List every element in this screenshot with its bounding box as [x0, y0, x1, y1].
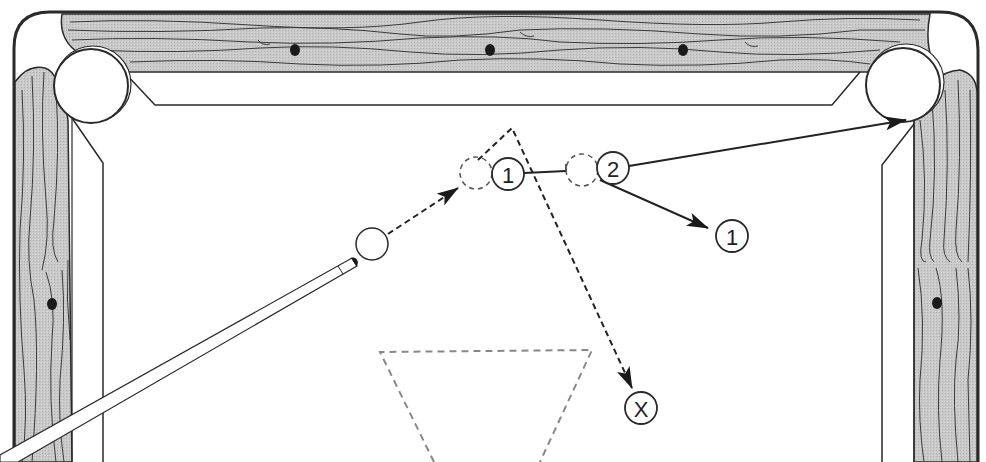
- object-ball-1: 1: [492, 158, 524, 190]
- cue-ball: [356, 228, 388, 260]
- diamond-marker: [47, 298, 57, 310]
- cue-ball-final-position: X: [625, 392, 657, 424]
- ball-1-final-label: 1: [726, 225, 738, 250]
- top-left-pocket: [54, 46, 131, 123]
- ball-2-label: 2: [607, 157, 619, 182]
- table-frame: [14, 12, 978, 462]
- diamond-marker: [485, 44, 495, 56]
- right-rail: [914, 70, 977, 462]
- object-ball-2: 2: [597, 152, 629, 184]
- left-rail: [15, 67, 72, 462]
- ball-1-final-position: 1: [716, 220, 748, 252]
- diamond-marker: [932, 297, 942, 309]
- ball-1-label: 1: [502, 163, 514, 188]
- top-rail: [61, 14, 932, 72]
- pool-table-diagram: 1 2 1 X: [0, 0, 986, 462]
- diamond-marker: [290, 44, 300, 56]
- x-marker-label: X: [634, 397, 649, 422]
- diamond-marker: [678, 44, 688, 56]
